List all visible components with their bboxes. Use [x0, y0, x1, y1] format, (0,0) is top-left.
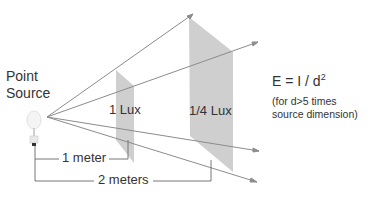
distance-1-meter-label: 1 meter: [59, 150, 109, 165]
near-plane-label: 1 Lux: [109, 102, 141, 117]
far-plane-label: 1/4 Lux: [189, 103, 232, 118]
distance-2-meters-label: 2 meters: [94, 172, 153, 187]
light-bulb-icon: [27, 111, 41, 146]
formula-main: E = I / d: [272, 73, 321, 89]
point-source-label: Point Source: [6, 68, 50, 102]
far-plane: [189, 17, 233, 172]
point-source-line1: Point: [6, 68, 50, 85]
formula-note: (for d>5 times source dimension): [272, 95, 358, 121]
formula-exponent: 2: [321, 72, 326, 82]
point-source-line2: Source: [6, 85, 50, 102]
note-line2: source dimension): [272, 108, 358, 121]
formula: E = I / d2: [272, 72, 326, 89]
note-line1: (for d>5 times: [272, 95, 358, 108]
